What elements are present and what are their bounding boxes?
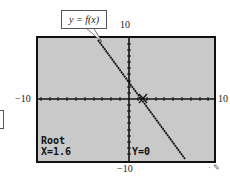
calculator-screen: Root X=1.6 Y=0 <box>36 36 216 163</box>
root-mode-text: Root <box>41 136 65 146</box>
xmax-label: 10 <box>218 93 228 104</box>
callout-pointer <box>80 25 140 55</box>
xmin-label: −10 <box>15 93 31 104</box>
partial-frame-box <box>0 110 4 129</box>
y-readout: Y=0 <box>132 147 150 157</box>
corner-mark: · ✎ <box>208 163 220 172</box>
function-callout: y = f(x) <box>61 10 107 29</box>
ymin-label: −10 <box>117 163 133 174</box>
x-readout: X=1.6 <box>41 147 71 157</box>
